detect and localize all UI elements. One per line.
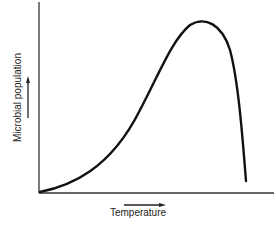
y-axis-label: Microbial population bbox=[12, 42, 23, 154]
population-curve bbox=[40, 21, 246, 192]
x-axis-label: Temperature bbox=[98, 207, 178, 218]
chart-plot bbox=[0, 0, 276, 229]
y-arrow-icon bbox=[26, 76, 30, 83]
chart: Microbial population Temperature bbox=[0, 0, 276, 229]
